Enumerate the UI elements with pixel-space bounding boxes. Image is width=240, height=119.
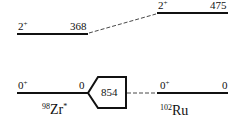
zr-nucleus-label: 98Zr* — [42, 103, 67, 117]
zr-2plus-energy-label: 368 — [70, 21, 87, 32]
ru-2plus-energy-label: 475 — [210, 0, 227, 11]
ru-2plus-spin-label: 2+ — [158, 0, 167, 11]
ru-0plus-spin-label: 0+ — [160, 80, 169, 91]
ru-0plus-energy-label: 0 — [222, 80, 228, 91]
upper-dashed-connector — [89, 14, 156, 33]
level-scheme-graphic — [0, 0, 240, 119]
ru-nucleus-label: 102Ru — [160, 104, 188, 118]
offset-box-value: 854 — [101, 87, 118, 98]
zr-0plus-energy-label: 0 — [79, 80, 85, 91]
zr-0plus-spin-label: 0+ — [18, 80, 27, 91]
zr-2plus-spin-label: 2+ — [18, 21, 27, 32]
